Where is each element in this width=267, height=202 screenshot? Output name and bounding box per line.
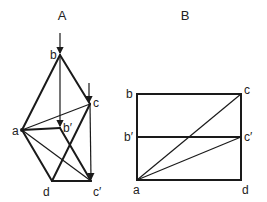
- label-a: a: [133, 183, 140, 197]
- label-d: d: [242, 183, 249, 197]
- label-b: b: [50, 48, 57, 62]
- label-c: c: [93, 96, 99, 110]
- label-bprime: b′: [63, 121, 73, 135]
- figure-b-title: B: [181, 8, 190, 23]
- label-cprime: c′: [244, 130, 253, 144]
- label-b: b: [126, 87, 133, 101]
- label-a: a: [12, 124, 19, 138]
- label-d: d: [43, 185, 50, 199]
- figure-b: B b c b′ c′ a d: [124, 8, 253, 197]
- edge-a-d: [22, 130, 52, 181]
- arrow-c-cprime: [90, 104, 91, 179]
- figure-a-title: A: [58, 8, 67, 23]
- vertex-a: [20, 128, 24, 132]
- edge-a-b: [22, 55, 60, 130]
- label-c: c: [244, 83, 250, 97]
- edge-b-c: [60, 55, 90, 104]
- diagonal-a-cprime: [137, 137, 241, 180]
- figure-a: A b c a b′ d c′: [12, 8, 102, 199]
- label-cprime: c′: [93, 185, 102, 199]
- diagram-canvas: A b c a b′ d c′ B b c b′ c′ a d: [0, 0, 267, 202]
- label-bprime: b′: [124, 130, 134, 144]
